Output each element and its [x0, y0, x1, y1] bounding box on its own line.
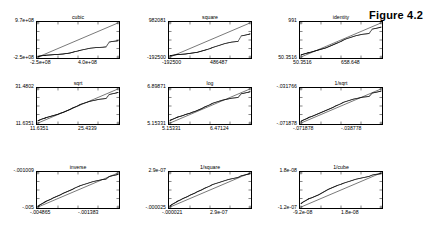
reference-line	[301, 173, 381, 207]
panel-title: inverse	[36, 164, 120, 170]
x-axis-max-label: 25.4339	[78, 126, 97, 132]
qq-panel-log: log6.898715.153315.153316.47124	[140, 80, 258, 134]
panel-title: log	[168, 80, 252, 86]
qq-panel-inverse: inverse-.001009-.005-.004865-.001383	[8, 164, 126, 218]
x-axis-min-label: 11.6351	[30, 126, 48, 132]
plot-frame	[168, 87, 252, 125]
y-axis-max-label: 9.7e+08	[8, 18, 34, 24]
y-axis-max-label: 1.8e-08	[271, 168, 297, 174]
plot-frame	[36, 21, 120, 59]
x-axis-min-label: -.000021	[162, 210, 182, 216]
x-axis-max-label: -.038778	[341, 126, 361, 132]
reference-line	[38, 23, 118, 57]
y-axis-max-label: -.001009	[8, 168, 34, 174]
qq-panel-1-sqrt: 1/sqrt-.031766-.071878-.071878-.038778	[271, 80, 389, 134]
x-axis-min-label: 50.3516	[293, 60, 312, 66]
panel-title: sqrt	[36, 80, 120, 86]
qq-panel-1-square: 1/square2.9e-07-.000025-.0000212.9e-07	[140, 164, 258, 218]
plot-frame	[299, 21, 383, 59]
reference-line	[301, 89, 381, 123]
reference-line	[170, 89, 250, 123]
qq-panel-identity: identity99150.351650.3516658.648	[271, 14, 389, 68]
qq-panel-sqrt: sqrt31.480211.635111.635125.4339	[8, 80, 126, 134]
x-axis-max-label: 2.9e-07	[210, 210, 228, 216]
plot-frame	[36, 87, 120, 125]
plot-area	[37, 88, 119, 124]
panel-title: identity	[299, 14, 383, 20]
panel-title: 1/square	[168, 164, 252, 170]
plot-frame	[299, 87, 383, 125]
y-axis-max-label: 2.9e-07	[140, 168, 166, 174]
plot-area	[169, 88, 251, 124]
plot-frame	[299, 171, 383, 209]
plot-area	[300, 172, 382, 208]
data-points	[38, 40, 119, 56]
x-axis-max-label: 4.0e+08	[78, 60, 97, 66]
panel-title: square	[168, 14, 252, 20]
plot-frame	[168, 21, 252, 59]
data-points	[301, 27, 382, 56]
qq-panel-cubic: cubic9.7e+08-2.5e+08-2.5e+084.0e+08	[8, 14, 126, 68]
reference-line	[170, 173, 250, 207]
x-axis-max-label: 6.47124	[210, 126, 229, 132]
qq-panel-square: square982081-192500-192500486487	[140, 14, 258, 68]
y-axis-max-label: -.031766	[271, 84, 297, 90]
y-axis-max-label: 31.4802	[8, 84, 34, 90]
panel-title: 1/cube	[299, 164, 383, 170]
plot-area	[37, 22, 119, 58]
panel-title: 1/sqrt	[299, 80, 383, 86]
y-axis-max-label: 6.89871	[140, 84, 166, 90]
plot-area	[169, 22, 251, 58]
x-axis-max-label: 1.8e-08	[341, 210, 359, 216]
x-axis-min-label: -9.2e-08	[293, 210, 312, 216]
x-axis-max-label: 486487	[210, 60, 227, 66]
panel-title: cubic	[36, 14, 120, 20]
plot-area	[169, 172, 251, 208]
y-axis-max-label: 991	[271, 18, 297, 24]
data-points	[170, 34, 251, 57]
x-axis-min-label: -192500	[162, 60, 181, 66]
data-points	[38, 92, 119, 121]
y-axis-max-label: 982081	[140, 18, 166, 24]
x-axis-max-label: -.001383	[78, 210, 98, 216]
plot-area	[37, 172, 119, 208]
reference-line	[170, 23, 250, 57]
plot-area	[300, 22, 382, 58]
figure-canvas: Figure 4.2 cubic9.7e+08-2.5e+08-2.5e+084…	[0, 0, 427, 236]
qq-panel-1-cube: 1/cube1.8e-08-1.2e-07-9.2e-081.8e-08	[271, 164, 389, 218]
x-axis-min-label: -2.5e+08	[30, 60, 51, 66]
x-axis-min-label: 5.15331	[162, 126, 181, 132]
x-axis-min-label: -.004865	[30, 210, 50, 216]
x-axis-max-label: 658.648	[341, 60, 360, 66]
x-axis-min-label: -.071878	[293, 126, 313, 132]
plot-frame	[36, 171, 120, 209]
plot-frame	[168, 171, 252, 209]
plot-area	[300, 88, 382, 124]
reference-line	[38, 173, 118, 207]
